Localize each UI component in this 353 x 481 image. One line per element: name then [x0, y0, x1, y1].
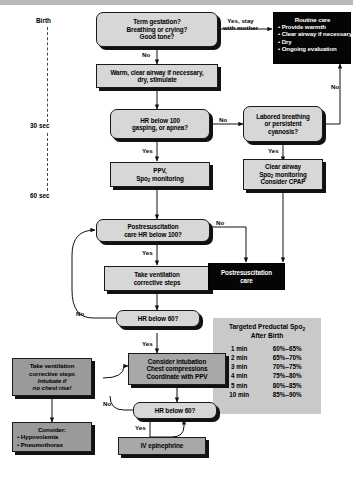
spo2-title-line-1: Targeted Preductal Spo2: [219, 323, 315, 332]
header-band: [0, 0, 353, 5]
assessment-line-3: Good tone?: [140, 33, 175, 41]
postresus-care-line-1: Postresuscitation: [221, 269, 272, 276]
node-clear-airway-cpap[interactable]: Clear airway Spo2 monitoring Consider CP…: [243, 159, 323, 190]
neonatal-resuscitation-flowchart: Birth 30 sec 60 sec: [0, 0, 353, 481]
timeline-label-30sec: 30 sec: [30, 122, 50, 129]
edge-label-no-1: No: [142, 51, 150, 58]
spo2-range: 75%–80%: [259, 371, 315, 380]
edge-label-yes-stay-mother: Yes, staywith mother: [223, 17, 258, 32]
timeline-label-60sec: 60 sec: [30, 192, 50, 199]
node-take-ventilation-intubate[interactable]: Take ventilation corrective steps Intuba…: [12, 358, 92, 396]
spo2-table-row: 3 min70%–75%: [219, 362, 315, 371]
warm-clear-line-1: Warm, clear airway if necessary,: [110, 69, 203, 76]
edge-label-yes-1: Yes: [142, 147, 153, 154]
spo2-table-row: 1 min60%–65%: [219, 344, 315, 353]
node-postresus-hr-below-100[interactable]: Postresuscitation care HR below 100?: [96, 219, 210, 242]
node-consider-intubation[interactable]: Consider intubation Chest compressions C…: [128, 353, 226, 385]
node-iv-epinephrine[interactable]: IV epinephrine: [118, 437, 206, 455]
edge-label-yes-5: Yes: [135, 424, 146, 431]
ppv-line-1: PPV,: [153, 167, 166, 174]
spo2-table-row: 4 min75%–80%: [219, 371, 315, 380]
assessment-line-1: Term gestation?: [133, 18, 181, 26]
warm-clear-line-2: dry, stimulate: [137, 76, 176, 83]
node-hr-below-60-mid[interactable]: HR below 60?: [116, 310, 200, 327]
spo2-range: 85%–90%: [259, 390, 315, 399]
consider-title: Consider:: [17, 426, 87, 433]
edge-label-no-5: No: [76, 310, 84, 317]
consider-bullet-2: • Pneumothorax: [17, 441, 63, 448]
spo2-table-row: 2 min65%–70%: [219, 353, 315, 362]
node-assessment[interactable]: Term gestation? Breathing or crying? Goo…: [96, 12, 218, 47]
spo2-range: 65%–70%: [259, 353, 315, 362]
spo2-target-table: Targeted Preductal Spo2 After Birth 1 mi…: [213, 318, 321, 414]
clear-airway-line-3: Consider CPAP: [261, 178, 306, 185]
vent-intub-line-2: corrective steps: [29, 370, 75, 377]
consider-intub-line-3: Coordinate with PPV: [147, 373, 208, 381]
node-routine-care[interactable]: Routine care • Provide warmth • Clear ai…: [273, 12, 351, 64]
spo2-range: 70%–75%: [259, 362, 315, 371]
postresus-hr100-line-2: care HR below 100?: [124, 231, 182, 238]
node-ppv[interactable]: PPV, Spo2 monitoring: [110, 162, 210, 187]
spo2-time: 1 min: [219, 344, 259, 353]
vent-intub-italic-2: no chest rise!: [33, 384, 72, 391]
routine-care-bullet-1: • Provide warmth: [278, 23, 326, 30]
spo2-rows: 1 min60%–65%2 min65%–70%3 min70%–75%4 mi…: [219, 344, 315, 399]
edge-label-yes-2: Yes: [268, 147, 279, 154]
labored-line-2: or persistent: [265, 120, 302, 127]
timeline-label-birth: Birth: [36, 17, 51, 24]
edge-label-yes-4: Yes: [142, 340, 153, 347]
edge-label-no-4: No: [216, 219, 224, 226]
node-consider-causes[interactable]: Consider: • Hypovolemia • Pneumothorax: [12, 422, 92, 452]
postresus-care-line-2: care: [240, 277, 253, 284]
edge-label-yes-3: Yes: [142, 249, 153, 256]
postresus-hr100-line-1: Postresuscitation: [127, 223, 178, 230]
hr100-apnea-line-2: gasping, or apnea?: [132, 124, 188, 131]
take-vent-line-2: corrective steps: [134, 279, 181, 286]
clear-airway-line-1: Clear airway: [265, 163, 301, 170]
consider-bullet-1: • Hypovolemia: [17, 433, 58, 440]
consider-intub-line-2: Chest compressions: [146, 365, 207, 373]
consider-intub-line-1: Consider intubation: [148, 358, 206, 366]
routine-care-title: Routine care: [278, 16, 347, 23]
labored-line-3: cyanosis?: [268, 128, 298, 135]
node-postresuscitation-care[interactable]: Postresuscitation care: [208, 263, 285, 290]
spo2-table-row: 5 min80%–85%: [219, 381, 315, 390]
vent-intub-italic-1: Intubate if: [38, 377, 66, 384]
spo2-table-row: 10 min85%–90%: [219, 390, 315, 399]
clear-airway-line-2: Spo2 monitoring: [259, 171, 307, 178]
edge-label-no-6: No: [103, 400, 111, 407]
assessment-line-2: Breathing or crying?: [127, 26, 188, 34]
node-hr-below-100-apnea[interactable]: HR below 100 gasping, or apnea?: [110, 109, 210, 139]
iv-epi-line-1: IV epinephrine: [141, 442, 184, 450]
hr60-mid-line-1: HR below 60?: [138, 315, 179, 323]
node-warm-clear-airway[interactable]: Warm, clear airway if necessary, dry, st…: [96, 64, 218, 88]
spo2-title-line-2: After Birth: [219, 332, 315, 341]
routine-care-bullet-3: • Dry: [278, 38, 292, 45]
node-labored-breathing[interactable]: Labored breathing or persistent cyanosis…: [243, 106, 323, 142]
timeline-segment-2: [47, 133, 48, 191]
hr60-bottom-line-1: HR below 60?: [155, 407, 196, 415]
take-vent-line-1: Take ventilation: [134, 271, 180, 278]
node-take-ventilation-steps[interactable]: Take ventilation corrective steps: [104, 266, 210, 291]
hr100-apnea-line-1: HR below 100: [140, 117, 180, 124]
node-hr-below-60-bottom[interactable]: HR below 60?: [133, 402, 217, 419]
edge-label-no-2: No: [219, 116, 227, 123]
labored-line-1: Labored breathing: [256, 113, 310, 120]
timeline-segment-1: [47, 27, 48, 122]
spo2-range: 60%–65%: [259, 344, 315, 353]
spo2-range: 80%–85%: [259, 381, 315, 390]
vent-intub-line-1: Take ventilation: [30, 362, 75, 369]
spo2-time: 10 min: [219, 390, 259, 399]
ppv-line-2: Spo2 monitoring: [136, 175, 184, 182]
edge-label-no-3: No: [331, 83, 339, 90]
routine-care-bullet-2: • Clear airway if necessary: [278, 30, 352, 37]
routine-care-bullet-4: • Ongoing evaluation: [278, 45, 337, 52]
